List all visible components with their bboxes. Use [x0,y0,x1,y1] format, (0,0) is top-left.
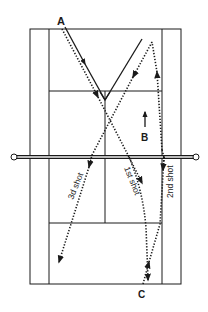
first-shot-path [62,29,98,97]
player-a-movement [65,27,142,100]
second-shot-label: 2nd shot [165,165,175,198]
third-shot-label: 3d shot [66,171,86,201]
third-shot-path [133,42,152,77]
net-post-left [11,154,17,160]
net-post-right [193,154,199,160]
player-c-label: C [138,289,145,300]
tennis-court-diagram: A B C 1st shot 2nd shot 3d shot [0,0,208,312]
player-a-label: A [57,15,65,27]
player-b-label: B [141,132,148,143]
first-shot-label: 1st shot [122,165,143,197]
